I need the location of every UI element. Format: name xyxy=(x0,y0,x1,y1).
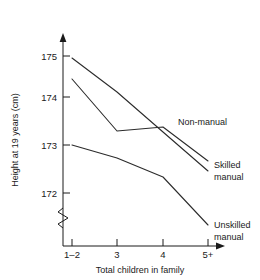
series-line-non-manual xyxy=(72,58,208,171)
y-axis-arrowhead xyxy=(60,33,67,42)
series-label-unskilled-manual-line1: Unskilled xyxy=(214,220,251,230)
series-line-unskilled-manual xyxy=(72,145,208,225)
y-tick-label-174: 174 xyxy=(41,92,57,103)
y-axis-title: Height at 19 years (cm) xyxy=(10,93,20,187)
x-axis-title: Total children in family xyxy=(96,265,185,275)
series-label-skilled-manual-line2: manual xyxy=(214,172,244,182)
x-tick-label-4: 4 xyxy=(160,249,165,260)
x-axis-arrowhead xyxy=(216,243,225,250)
series-label-skilled-manual-line1: Skilled xyxy=(214,160,241,170)
line-chart-svg: 175 174 173 172 1–2 3 4 5+ Total childre… xyxy=(0,0,260,280)
y-tick-label-172: 172 xyxy=(41,188,57,199)
chart-container: 175 174 173 172 1–2 3 4 5+ Total childre… xyxy=(0,0,260,280)
series-label-unskilled-manual-line2: manual xyxy=(214,232,244,242)
x-tick-label-5plus: 5+ xyxy=(203,249,214,260)
y-tick-label-173: 173 xyxy=(41,140,57,151)
x-tick-label-3: 3 xyxy=(114,249,119,260)
x-axis xyxy=(63,243,225,250)
y-tick-marks xyxy=(63,56,70,193)
x-tick-label-1-2: 1–2 xyxy=(64,249,80,260)
y-tick-label-175: 175 xyxy=(41,51,57,62)
x-tick-marks xyxy=(72,239,208,246)
series-label-non-manual: Non-manual xyxy=(178,117,227,127)
